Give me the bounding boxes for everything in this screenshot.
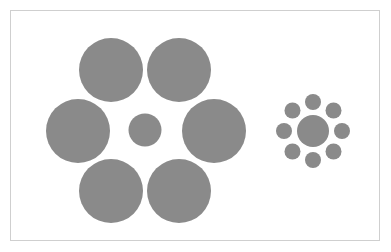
small-surrounding-circle bbox=[326, 102, 342, 118]
large-surrounding-circle bbox=[79, 38, 143, 102]
small-surrounding-circle bbox=[284, 144, 300, 160]
large-surrounding-circle bbox=[147, 159, 211, 223]
large-surrounding-circle bbox=[46, 99, 110, 163]
small-surrounding-circle bbox=[276, 123, 292, 139]
right-center-circle bbox=[297, 115, 329, 147]
large-surrounding-circle bbox=[147, 38, 211, 102]
small-surrounding-circle bbox=[334, 123, 350, 139]
small-surrounding-circle bbox=[284, 102, 300, 118]
small-surrounding-circle bbox=[305, 94, 321, 110]
small-surrounding-circle bbox=[326, 144, 342, 160]
left-center-circle bbox=[129, 114, 162, 147]
small-surrounding-circle bbox=[305, 152, 321, 168]
ebbinghaus-illusion-diagram bbox=[0, 0, 391, 252]
left-circle-group bbox=[46, 38, 246, 223]
large-surrounding-circle bbox=[79, 159, 143, 223]
right-circle-group bbox=[276, 94, 350, 168]
large-surrounding-circle bbox=[182, 99, 246, 163]
